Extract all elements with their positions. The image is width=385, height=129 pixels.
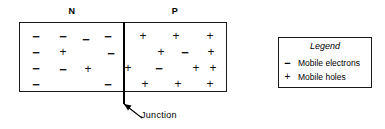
carrier-hole: + (209, 62, 216, 74)
carrier-electron: − (104, 78, 112, 91)
legend-box: Legend − Mobile electrons + Mobile holes (278, 37, 372, 88)
carrier-hole: + (59, 46, 66, 58)
carrier-electron: − (59, 30, 67, 43)
carrier-hole: + (174, 78, 181, 90)
carrier-hole: + (206, 78, 213, 90)
carrier-hole: + (84, 63, 91, 75)
legend-item-label: Mobile electrons (298, 58, 360, 68)
carrier-electron: − (82, 33, 90, 46)
carrier-hole: + (157, 46, 164, 58)
carrier-electron: − (32, 62, 40, 75)
legend-title: Legend (279, 41, 371, 51)
plus-symbol-icon: + (283, 71, 292, 82)
carrier-hole: + (124, 62, 131, 74)
p-type-region: ++++−++−+++++ (125, 23, 228, 91)
legend-item-mobile-electrons: − Mobile electrons (283, 57, 360, 69)
carrier-hole: + (192, 62, 199, 74)
carrier-electron: − (155, 62, 163, 75)
carrier-hole: + (172, 30, 179, 42)
region-label-n: N (62, 6, 82, 16)
region-label-p: P (165, 6, 185, 16)
carrier-hole: + (206, 30, 213, 42)
carrier-electron: − (104, 30, 112, 43)
carrier-electron: − (107, 47, 115, 60)
minus-symbol-icon: − (283, 57, 292, 69)
carrier-hole: + (207, 46, 214, 58)
legend-item-label: Mobile holes (298, 72, 346, 82)
carrier-hole: + (141, 78, 148, 90)
junction-label: Junction (141, 110, 177, 120)
carrier-electron: − (32, 30, 40, 43)
n-type-region: −−−−−+−−−+−− (20, 23, 123, 91)
carrier-electron: − (181, 46, 189, 59)
junction-leader-line (120, 92, 210, 126)
carrier-electron: − (59, 63, 67, 76)
carrier-hole: + (139, 30, 146, 42)
carrier-electron: − (32, 78, 40, 91)
legend-item-mobile-holes: + Mobile holes (283, 71, 346, 82)
carrier-electron: − (32, 46, 40, 59)
